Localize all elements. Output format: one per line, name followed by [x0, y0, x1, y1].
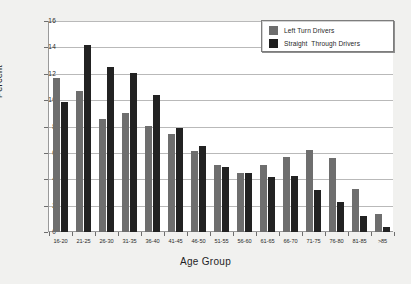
- legend-item-straight-through-drivers: Straight Through Drivers: [266, 37, 389, 49]
- bar: [107, 67, 114, 232]
- x-tick-label: 36-40: [141, 238, 164, 244]
- x-tick-label: 71-75: [302, 238, 325, 244]
- bar: [214, 165, 221, 232]
- legend-item-left-turn-drivers: Left Turn Drivers: [266, 24, 389, 36]
- bar: [176, 128, 183, 232]
- chart-legend: Left Turn Drivers Straight Through Drive…: [261, 20, 394, 52]
- bar: [237, 173, 244, 232]
- bar: [268, 177, 275, 232]
- bar: [61, 102, 68, 232]
- bar: [84, 45, 91, 232]
- x-tick-label: 81-85: [348, 238, 371, 244]
- x-tick-label: 21-25: [72, 238, 95, 244]
- x-tick-mark: [233, 232, 234, 236]
- x-tick-label: 46-50: [187, 238, 210, 244]
- x-tick-label: 31-35: [118, 238, 141, 244]
- x-tick-label: 76-80: [325, 238, 348, 244]
- bar: [76, 91, 83, 232]
- bar: [222, 167, 229, 232]
- x-tick-mark: [49, 232, 50, 236]
- x-tick-mark: [95, 232, 96, 236]
- x-tick-mark: [394, 232, 395, 236]
- x-tick-mark: [210, 232, 211, 236]
- x-tick-label: 16-20: [49, 238, 72, 244]
- bar-chart: 0246810121416 Percent 16-2021-2526-3031-…: [0, 0, 411, 284]
- x-tick-mark: [118, 232, 119, 236]
- bar: [306, 150, 313, 232]
- bar: [191, 151, 198, 232]
- x-tick-label: 41-45: [164, 238, 187, 244]
- x-tick-mark: [72, 232, 73, 236]
- bar: [360, 216, 367, 232]
- bar: [260, 165, 267, 232]
- bar: [122, 113, 129, 232]
- y-axis-title: Percent: [0, 65, 4, 98]
- x-tick-mark: [141, 232, 142, 236]
- x-tick-label: 26-30: [95, 238, 118, 244]
- x-tick-label: >85: [371, 238, 394, 244]
- x-tick-mark: [187, 232, 188, 236]
- bar: [130, 73, 137, 232]
- bar: [383, 227, 390, 232]
- x-axis-title: Age Group: [0, 256, 411, 267]
- bar: [99, 119, 106, 232]
- x-tick-label: 61-65: [256, 238, 279, 244]
- bar: [168, 134, 175, 232]
- x-tick-label: 56-60: [233, 238, 256, 244]
- x-tick-mark: [279, 232, 280, 236]
- bar: [53, 78, 60, 232]
- legend-swatch-icon: [269, 26, 278, 35]
- x-tick-label: 51-55: [210, 238, 233, 244]
- legend-label: Straight Through Drivers: [284, 40, 360, 47]
- bar: [153, 95, 160, 232]
- legend-label: Left Turn Drivers: [284, 27, 334, 34]
- bar: [245, 173, 252, 232]
- bar: [329, 158, 336, 233]
- bar: [291, 176, 298, 232]
- bar: [283, 157, 290, 232]
- x-tick-mark: [348, 232, 349, 236]
- bars-layer: [49, 21, 393, 232]
- bar: [337, 202, 344, 232]
- bar: [352, 189, 359, 232]
- x-tick-mark: [302, 232, 303, 236]
- x-tick-label: 66-70: [279, 238, 302, 244]
- bar: [199, 146, 206, 232]
- x-tick-mark: [256, 232, 257, 236]
- bar: [375, 214, 382, 232]
- bar: [314, 190, 321, 232]
- bar: [145, 126, 152, 232]
- x-tick-mark: [164, 232, 165, 236]
- legend-swatch-icon: [269, 39, 278, 48]
- x-tick-mark: [371, 232, 372, 236]
- x-tick-mark: [325, 232, 326, 236]
